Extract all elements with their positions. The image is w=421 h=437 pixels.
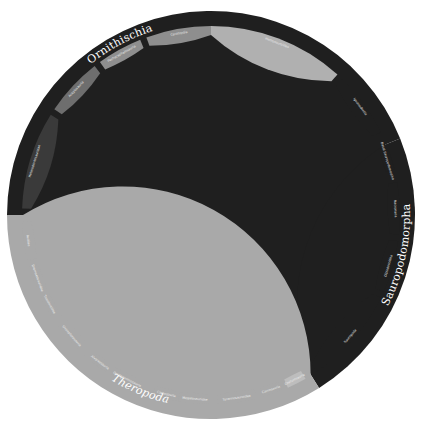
phylogeny-figure: HeterodontosauridaeAnkylosauriaPachyceph…	[0, 0, 421, 437]
phylogenetic-tree: HeterodontosauridaeAnkylosauriaPachyceph…	[0, 0, 421, 437]
clade-ring	[7, 11, 415, 419]
subclade-label: Macronaria	[393, 200, 398, 218]
